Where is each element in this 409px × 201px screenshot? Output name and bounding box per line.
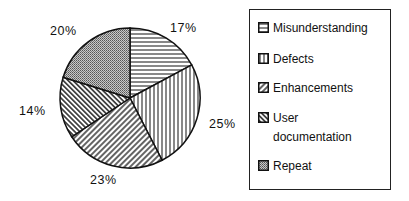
legend-item: Userdocumentation (258, 110, 352, 148)
slice-percent-label: 20% (50, 24, 77, 38)
slice-percent-label: 23% (90, 173, 117, 187)
legend-swatch-icon (258, 53, 269, 64)
legend-label: Repeat (273, 158, 312, 174)
legend-swatch-icon (258, 160, 269, 171)
legend-swatch-icon (258, 82, 269, 93)
legend-item: Defects (258, 51, 314, 67)
legend-label: Misunderstanding (273, 20, 368, 36)
slice-percent-label: 14% (19, 104, 46, 118)
legend-swatch-icon (258, 22, 269, 33)
legend-item: Enhancements (258, 80, 353, 96)
slice-percent-label: 17% (170, 21, 197, 35)
legend-swatch-icon (258, 112, 269, 123)
legend-label: Userdocumentation (273, 110, 352, 148)
pie-slices (60, 28, 200, 168)
legend-item: Misunderstanding (258, 20, 368, 36)
legend-label: Enhancements (273, 80, 353, 96)
legend-item: Repeat (258, 158, 312, 174)
legend-label: Defects (273, 51, 314, 67)
slice-percent-label: 25% (209, 117, 236, 131)
legend: MisunderstandingDefectsEnhancementsUserd… (249, 9, 391, 190)
